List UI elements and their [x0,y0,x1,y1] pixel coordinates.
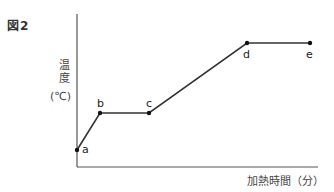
chart-plot [0,0,334,192]
point-a [75,148,79,152]
temperature-curve [77,43,310,150]
x-axis-label: 加熱時間（分） [247,172,324,188]
point-label-c: c [146,97,152,110]
point-d [245,41,249,45]
point-label-d: d [243,48,250,61]
point-c [147,111,151,115]
point-b [98,111,102,115]
point-e [308,41,312,45]
point-label-b: b [97,97,104,110]
point-label-e: e [306,48,313,61]
point-label-a: a [82,143,89,156]
